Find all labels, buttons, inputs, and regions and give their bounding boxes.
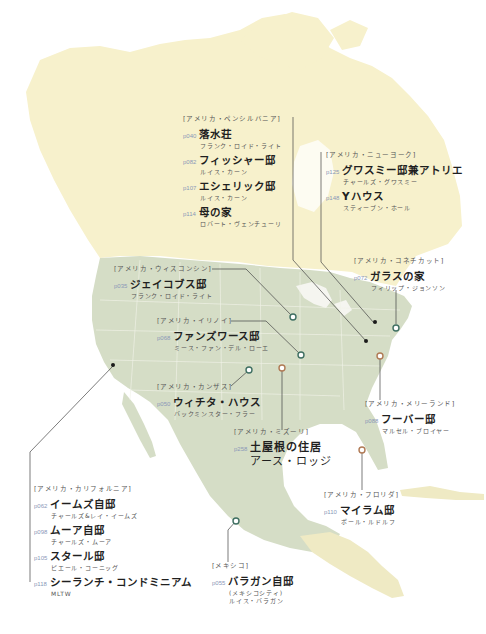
- building-entry[interactable]: p114母の家 ロバート・ヴェンチューリ: [183, 203, 282, 227]
- marker-mexico: [233, 518, 239, 524]
- marker-connecticut: [393, 325, 399, 331]
- page-number: p062: [34, 503, 48, 509]
- central-america-landmass: [300, 532, 404, 598]
- building-subtitle: アース・ロッジ: [234, 456, 332, 467]
- marker-newyork: [373, 320, 377, 324]
- group-connecticut: [アメリカ・コネチカット] p072ガラスの家 フィリップ・ジョンソン: [354, 258, 446, 293]
- architect-name: ルイス・カーン: [183, 195, 282, 201]
- marker-pennsylvania: [364, 339, 368, 343]
- group-wisconsin: [アメリカ・ウィスコンシン] p035ジェイコブス邸 フランク・ロイド・ライト: [114, 266, 213, 301]
- building-entry[interactable]: p105スタール邸 ピエール・コーニッグ: [34, 547, 192, 571]
- architect-name: スティーブン・ホール: [326, 205, 463, 211]
- architect-name: チャールズ&レイ・イームズ: [34, 513, 192, 519]
- building-title: ジェイコブス邸: [130, 278, 207, 290]
- marker-kansas: [246, 367, 252, 373]
- building-entry[interactable]: p098ムーア自邸 チャールズ・ムーア: [34, 521, 192, 545]
- architect-name: フランク・ロイド・ライト: [114, 293, 213, 299]
- caribbean-islands: [400, 486, 484, 500]
- building-title: Yハウス: [342, 190, 384, 202]
- marker-california: [111, 363, 115, 367]
- building-entry[interactable]: p068ファンズワース邸 ミース・ファン・デル・ローエ: [157, 327, 269, 351]
- building-entry[interactable]: p062イームズ自邸 チャールズ&レイ・イームズ: [34, 495, 192, 519]
- region-label: [アメリカ・カリフォルニア]: [34, 486, 192, 493]
- region-label: [メキシコ]: [212, 563, 294, 570]
- group-mexico: [メキシコ] p055バラガン自邸 (メキシコシティ) ルイス・バラガン: [212, 563, 294, 606]
- architect-name: バックミンスター・フラー: [157, 411, 261, 417]
- building-entry[interactable]: p055バラガン自邸 (メキシコシティ) ルイス・バラガン: [212, 572, 294, 604]
- building-entry[interactable]: p110マイラム邸 ポール・ルドルフ: [324, 501, 399, 525]
- architect-name: ルイス・カーン: [183, 169, 282, 175]
- group-illinois: [アメリカ・イリノイ] p068ファンズワース邸 ミース・ファン・デル・ローエ: [157, 318, 269, 353]
- page-number: p258: [234, 446, 248, 452]
- page-number: p118: [34, 581, 48, 587]
- marker-illinois: [298, 352, 304, 358]
- architect-name: チャールズ・グワスミー: [326, 179, 463, 185]
- region-label: [アメリカ・コネチカット]: [354, 258, 446, 265]
- building-title: 母の家: [199, 206, 232, 218]
- region-label: [アメリカ・カンザス]: [157, 384, 261, 391]
- architect-name: ピエール・コーニッグ: [34, 565, 192, 571]
- building-entry[interactable]: p072ガラスの家 フィリップ・ジョンソン: [354, 267, 446, 291]
- building-entry[interactable]: p040落水荘 フランク・ロイド・ライト: [183, 125, 282, 149]
- architect-name: フランク・ロイド・ライト: [183, 143, 282, 149]
- page-number: p098: [34, 529, 48, 535]
- building-entry[interactable]: p258土屋根の住居 アース・ロッジ: [234, 438, 332, 467]
- page-number: p148: [326, 195, 340, 201]
- architect-name: ポール・ルドルフ: [324, 519, 399, 525]
- building-title: マイラム邸: [340, 504, 395, 516]
- page-number: p068: [157, 335, 171, 341]
- page-number: p040: [183, 133, 197, 139]
- page-number: p050: [157, 401, 171, 407]
- building-title: バラガン自邸: [228, 575, 294, 587]
- building-title: スタール邸: [50, 550, 105, 562]
- group-california: [アメリカ・カリフォルニア] p062イームズ自邸 チャールズ&レイ・イームズ …: [34, 486, 192, 599]
- building-entry[interactable]: p125グワスミー邸兼アトリエ チャールズ・グワスミー: [326, 161, 463, 185]
- marker-maryland: [377, 353, 383, 359]
- page-number: p125: [326, 169, 340, 175]
- architect-name: ロバート・ヴェンチューリ: [183, 221, 282, 227]
- location-note: (メキシコシティ): [212, 590, 294, 596]
- building-title: ムーア自邸: [50, 524, 105, 536]
- marker-missouri: [279, 365, 285, 371]
- architect-name: チャールズ・ムーア: [34, 539, 192, 545]
- building-entry[interactable]: p107エシェリック邸 ルイス・カーン: [183, 177, 282, 201]
- building-title: 土屋根の住居: [250, 441, 322, 454]
- building-entry[interactable]: p082フィッシャー邸 ルイス・カーン: [183, 151, 282, 175]
- page-number: p055: [212, 580, 226, 586]
- group-maryland: [アメリカ・メリーランド] p088フーバー邸 マルセル・ブロイヤー: [365, 401, 455, 436]
- building-title: シーランチ・コンドミニアム: [50, 576, 192, 588]
- page-number: p105: [34, 555, 48, 561]
- page-number: p110: [324, 509, 338, 515]
- region-label: [アメリカ・フロリダ]: [324, 492, 399, 499]
- region-label: [アメリカ・ミズーリ]: [234, 429, 332, 436]
- building-entry[interactable]: p035ジェイコブス邸 フランク・ロイド・ライト: [114, 275, 213, 299]
- building-title: フーバー邸: [381, 413, 436, 425]
- building-title: イームズ自邸: [50, 498, 116, 510]
- group-kansas: [アメリカ・カンザス] p050ウィチタ・ハウス バックミンスター・フラー: [157, 384, 261, 419]
- architect-name: MLTW: [34, 591, 192, 597]
- region-label: [アメリカ・イリノイ]: [157, 318, 269, 325]
- page-number: p035: [114, 283, 128, 289]
- building-title: エシェリック邸: [199, 180, 276, 192]
- group-florida: [アメリカ・フロリダ] p110マイラム邸 ポール・ルドルフ: [324, 492, 399, 527]
- building-entry[interactable]: p088フーバー邸 マルセル・ブロイヤー: [365, 410, 455, 434]
- building-entry[interactable]: p118シーランチ・コンドミニアム MLTW: [34, 573, 192, 597]
- architect-name: フィリップ・ジョンソン: [354, 285, 446, 291]
- region-label: [アメリカ・ニューヨーク]: [326, 152, 463, 159]
- region-label: [アメリカ・ウィスコンシン]: [114, 266, 213, 273]
- building-entry[interactable]: p148Yハウス スティーブン・ホール: [326, 187, 463, 211]
- building-entry[interactable]: p050ウィチタ・ハウス バックミンスター・フラー: [157, 393, 261, 417]
- building-title: ファンズワース邸: [173, 330, 260, 342]
- architect-name: ミース・ファン・デル・ローエ: [157, 345, 269, 351]
- building-title: 落水荘: [199, 128, 232, 140]
- marker-florida: [359, 447, 365, 453]
- building-title: フィッシャー邸: [199, 154, 276, 166]
- page-number: p114: [183, 211, 197, 217]
- building-title: グワスミー邸兼アトリエ: [342, 164, 463, 176]
- page-number: p072: [354, 275, 368, 281]
- building-title: ウィチタ・ハウス: [173, 396, 261, 408]
- building-title: ガラスの家: [370, 270, 425, 282]
- marker-wisconsin: [290, 314, 296, 320]
- page-number: p082: [183, 159, 197, 165]
- region-label: [アメリカ・メリーランド]: [365, 401, 455, 408]
